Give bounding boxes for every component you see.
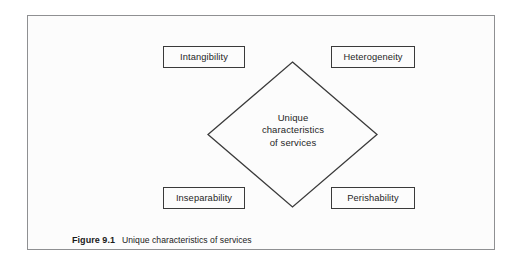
diamond-center-label: Unique characteristics of services: [224, 112, 362, 149]
characteristic-label-inseparability: Inseparability: [176, 193, 232, 203]
characteristic-box-inseparability: Inseparability: [163, 187, 245, 209]
figure-caption-label: Figure 9.1: [72, 235, 115, 245]
characteristic-label-intangibility: Intangibility: [180, 52, 228, 62]
characteristic-label-perishability: Perishability: [347, 193, 398, 203]
figure-container: Unique characteristics of services Intan…: [0, 0, 518, 267]
characteristic-box-intangibility: Intangibility: [163, 46, 245, 68]
characteristic-box-perishability: Perishability: [331, 187, 415, 209]
characteristic-label-heterogeneity: Heterogeneity: [343, 52, 402, 62]
figure-caption-text: Unique characteristics of services: [122, 235, 252, 245]
diamond-label-line-2: characteristics: [224, 124, 362, 136]
diamond-label-line-1: Unique: [224, 112, 362, 124]
figure-caption: Figure 9.1Unique characteristics of serv…: [72, 235, 252, 245]
diamond-label-line-3: of services: [224, 137, 362, 149]
figure-frame: Unique characteristics of services Intan…: [27, 15, 495, 250]
characteristic-box-heterogeneity: Heterogeneity: [331, 46, 415, 68]
